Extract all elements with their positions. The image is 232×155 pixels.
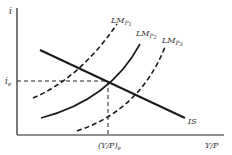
is-curve xyxy=(40,50,185,118)
lm-p3-label: LMP3 xyxy=(161,36,183,47)
is-label: IS xyxy=(187,117,197,126)
y-axis-label: i xyxy=(9,6,12,16)
lm-p2-label: LMP2 xyxy=(135,29,157,40)
equilibrium-interest-label: ie xyxy=(5,76,12,87)
lm-p1-label: LMP1 xyxy=(110,16,132,27)
x-axis-label: Y/P xyxy=(205,141,219,150)
equilibrium-output-label: (Y/P)e xyxy=(98,141,122,151)
is-lm-diagram: i Y/P ie (Y/P)e IS LMP1 LMP2 LMP3 xyxy=(0,0,232,155)
